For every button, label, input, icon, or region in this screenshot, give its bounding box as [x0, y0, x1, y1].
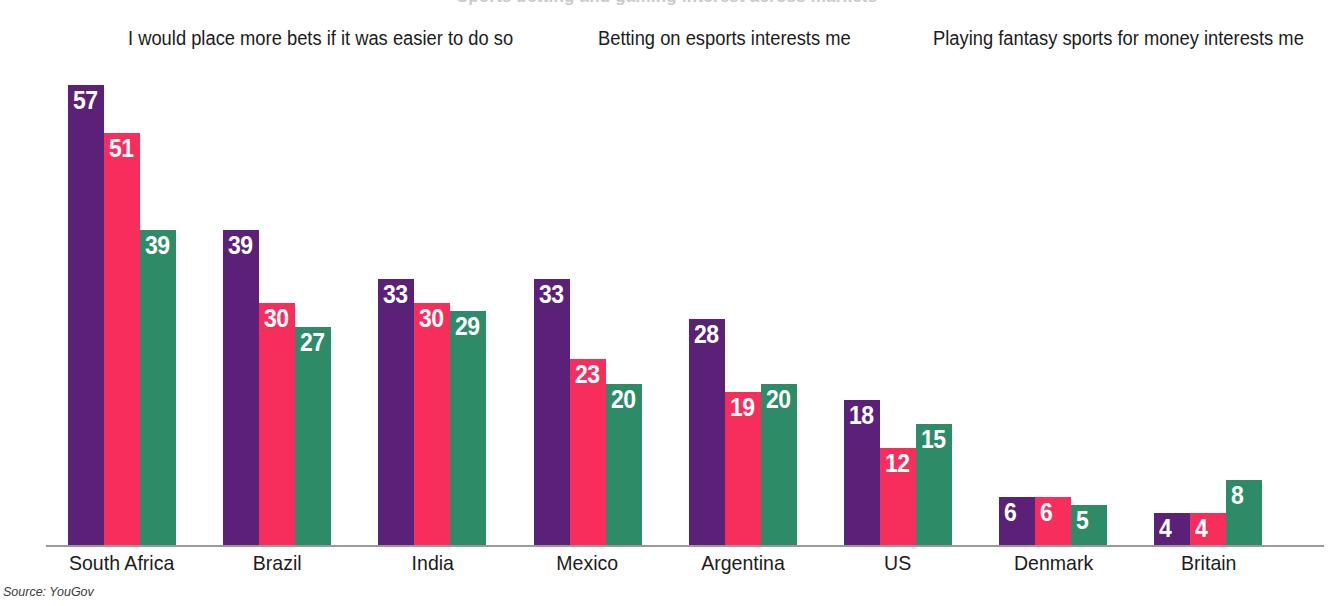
bar-value-label: 20 [611, 387, 636, 412]
bar-value-label: 30 [264, 306, 289, 331]
bar-value-label: 6 [1040, 500, 1052, 525]
bar-value-label: 51 [109, 136, 134, 161]
bar-value-label: 57 [73, 88, 98, 113]
bar-value-label: 39 [145, 233, 170, 258]
bar-chart-plot-area: 5751393930273330293323202819201812156654… [0, 0, 1334, 606]
bar-value-label: 33 [383, 282, 408, 307]
bar[interactable]: 29 [450, 311, 486, 545]
bar-value-label: 39 [228, 233, 253, 258]
bar[interactable]: 39 [223, 230, 259, 545]
bar-value-label: 15 [921, 427, 946, 452]
bar[interactable]: 19 [725, 392, 761, 545]
bar[interactable]: 6 [1035, 497, 1071, 545]
bar-group: 333029 [378, 75, 486, 545]
bar[interactable]: 33 [378, 279, 414, 545]
bar-value-label: 4 [1195, 516, 1207, 541]
bar[interactable]: 51 [104, 133, 140, 545]
bar[interactable]: 27 [295, 327, 331, 545]
bar[interactable]: 28 [689, 319, 725, 545]
bar-group: 448 [1154, 75, 1262, 545]
bar[interactable]: 39 [140, 230, 176, 545]
bar-value-label: 12 [885, 451, 910, 476]
bar-value-label: 28 [694, 322, 719, 347]
bar-value-label: 29 [455, 314, 480, 339]
bar[interactable]: 57 [68, 85, 104, 545]
bar-value-label: 6 [1004, 500, 1016, 525]
bar[interactable]: 6 [999, 497, 1035, 545]
bar-value-label: 5 [1076, 508, 1088, 533]
bar-value-label: 27 [300, 330, 325, 355]
bar[interactable]: 4 [1154, 513, 1190, 545]
bar[interactable]: 20 [606, 384, 642, 545]
bar[interactable]: 15 [916, 424, 952, 545]
bar-group: 665 [999, 75, 1107, 545]
bar[interactable]: 30 [259, 303, 295, 545]
bar[interactable]: 33 [534, 279, 570, 545]
bar[interactable]: 4 [1190, 513, 1226, 545]
bar-value-label: 23 [575, 362, 600, 387]
category-label: Britain [1104, 551, 1312, 575]
source-note: Source: YouGov [3, 585, 94, 599]
bar-group: 575139 [68, 75, 176, 545]
bar-value-label: 18 [849, 403, 874, 428]
x-axis-line [46, 545, 1324, 547]
bar-value-label: 19 [730, 395, 755, 420]
bar[interactable]: 5 [1071, 505, 1107, 545]
bar-group: 393027 [223, 75, 331, 545]
bar-value-label: 4 [1159, 516, 1171, 541]
bar-value-label: 20 [766, 387, 791, 412]
bar-group: 332320 [534, 75, 642, 545]
bar[interactable]: 18 [844, 400, 880, 545]
bar-group: 181215 [844, 75, 952, 545]
bar-value-label: 8 [1231, 483, 1243, 508]
bar-value-label: 30 [419, 306, 444, 331]
bar[interactable]: 12 [880, 448, 916, 545]
bar[interactable]: 30 [414, 303, 450, 545]
bar[interactable]: 8 [1226, 480, 1262, 545]
bar-group: 281920 [689, 75, 797, 545]
bar[interactable]: 23 [570, 359, 606, 545]
bar[interactable]: 20 [761, 384, 797, 545]
bar-value-label: 33 [539, 282, 564, 307]
